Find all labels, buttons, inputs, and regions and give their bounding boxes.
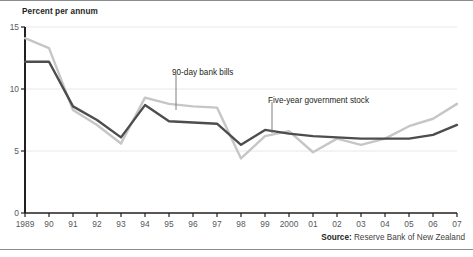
x-tick-label-1995: 95 [164, 219, 173, 229]
y-tick-label-5: 5 [3, 146, 19, 156]
annotation-govt-stock: Five-year government stock [268, 96, 369, 105]
source-line: Source: Reserve Bank of New Zealand [321, 233, 465, 242]
annotation-bank-bills: 90-day bank bills [172, 68, 233, 77]
x-tick-label-2001: 01 [308, 219, 317, 229]
source-label: Source: [321, 233, 351, 242]
y-tick-label-10: 10 [3, 84, 19, 94]
x-tick-label-1990: 90 [44, 219, 53, 229]
gridlines [25, 27, 457, 151]
x-tick-label-1994: 94 [140, 219, 149, 229]
x-tick-label-2005: 05 [404, 219, 413, 229]
source-text: Reserve Bank of New Zealand [352, 233, 465, 242]
x-tick-label-2002: 02 [332, 219, 341, 229]
chart-figure: Percent per annum 051015 198990919293949… [0, 0, 473, 257]
y-tick-label-0: 0 [3, 208, 19, 218]
x-tick-label-2004: 04 [380, 219, 389, 229]
x-tick-label-1991: 91 [68, 219, 77, 229]
series-line-bank-bills [25, 38, 457, 158]
x-tick-label-2006: 06 [428, 219, 437, 229]
x-tick-label-1997: 97 [212, 219, 221, 229]
x-tick-label-1998: 98 [236, 219, 245, 229]
x-tick-label-2000: 2000 [280, 219, 299, 229]
bottom-divider-rule [0, 249, 473, 250]
series-line-govt-stock [25, 62, 457, 145]
x-tick-label-1993: 93 [116, 219, 125, 229]
x-tick-label-1996: 96 [188, 219, 197, 229]
x-tick-label-2007: 07 [452, 219, 461, 229]
x-tick-label-2003: 03 [356, 219, 365, 229]
series-lines [25, 38, 457, 158]
y-tick-label-15: 15 [3, 22, 19, 32]
x-tick-label-1992: 92 [92, 219, 101, 229]
x-tick-label-1999: 99 [260, 219, 269, 229]
x-tick-label-1989: 1989 [16, 219, 35, 229]
